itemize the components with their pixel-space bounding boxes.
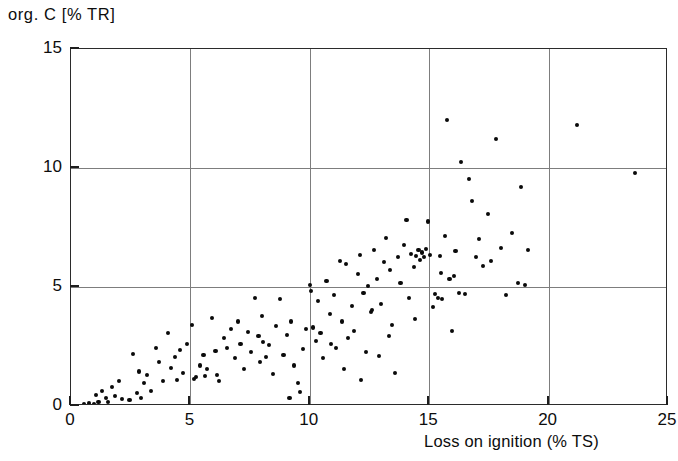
data-point bbox=[301, 347, 305, 351]
data-point bbox=[379, 302, 383, 306]
data-point bbox=[82, 402, 86, 404]
data-point bbox=[359, 378, 363, 382]
data-point bbox=[334, 346, 338, 350]
y-axis-title: org. C [% TR] bbox=[8, 5, 115, 24]
data-point bbox=[450, 329, 454, 333]
data-point bbox=[407, 296, 411, 300]
data-point bbox=[87, 401, 91, 404]
data-point bbox=[113, 394, 117, 398]
data-point bbox=[292, 363, 296, 367]
data-point bbox=[396, 255, 400, 259]
data-point bbox=[222, 336, 226, 340]
data-point bbox=[404, 218, 408, 222]
data-point bbox=[356, 272, 360, 276]
data-point bbox=[422, 255, 426, 259]
data-point bbox=[213, 349, 217, 353]
data-point bbox=[281, 353, 285, 357]
data-point bbox=[409, 252, 413, 256]
data-point bbox=[238, 342, 242, 346]
data-point bbox=[131, 352, 135, 356]
data-point bbox=[470, 199, 474, 203]
data-point bbox=[190, 323, 194, 327]
y-axis-tick bbox=[70, 285, 79, 287]
data-point bbox=[267, 343, 271, 347]
data-point bbox=[92, 402, 96, 405]
x-axis-tick-label: 15 bbox=[408, 410, 448, 430]
data-point bbox=[264, 355, 268, 359]
data-point bbox=[271, 372, 275, 376]
x-axis-tick bbox=[547, 396, 549, 405]
data-point bbox=[217, 379, 221, 383]
data-point bbox=[377, 354, 381, 358]
data-point bbox=[447, 277, 451, 281]
data-point bbox=[225, 346, 229, 350]
y-axis-tick bbox=[70, 404, 79, 406]
data-point bbox=[316, 299, 320, 303]
data-point bbox=[106, 400, 110, 404]
data-point bbox=[318, 331, 322, 335]
data-point bbox=[285, 333, 289, 337]
y-axis-tick bbox=[70, 47, 79, 49]
data-point bbox=[278, 297, 282, 301]
x-axis-tick bbox=[69, 396, 71, 405]
data-point bbox=[352, 329, 356, 333]
data-point bbox=[393, 371, 397, 375]
data-point bbox=[443, 234, 447, 238]
data-point bbox=[402, 243, 406, 247]
data-point bbox=[157, 360, 161, 364]
data-point bbox=[344, 262, 348, 266]
data-point bbox=[233, 356, 237, 360]
data-point bbox=[523, 283, 527, 287]
data-point bbox=[370, 308, 374, 312]
data-point bbox=[452, 274, 456, 278]
data-point bbox=[308, 283, 312, 287]
data-point bbox=[340, 319, 344, 323]
data-point bbox=[246, 330, 250, 334]
data-point bbox=[120, 397, 124, 401]
data-point bbox=[390, 323, 394, 327]
data-point bbox=[210, 316, 214, 320]
data-point bbox=[418, 258, 422, 262]
x-axis-tick bbox=[427, 396, 429, 405]
data-point bbox=[372, 248, 376, 252]
data-point bbox=[309, 289, 313, 293]
x-axis-tick bbox=[666, 396, 668, 405]
data-point bbox=[236, 319, 240, 323]
data-point bbox=[260, 314, 264, 318]
data-point bbox=[413, 317, 417, 321]
data-point bbox=[467, 177, 471, 181]
data-point bbox=[324, 279, 328, 283]
data-point bbox=[328, 312, 332, 316]
data-point bbox=[361, 291, 365, 295]
data-point bbox=[453, 249, 457, 253]
x-axis-tick-label: 0 bbox=[50, 410, 90, 430]
x-axis-tick-label: 25 bbox=[647, 410, 678, 430]
y-axis-tick-label: 5 bbox=[16, 276, 62, 296]
data-point bbox=[346, 336, 350, 340]
data-point bbox=[258, 360, 262, 364]
data-point bbox=[137, 369, 141, 373]
data-point bbox=[94, 393, 98, 397]
data-point bbox=[342, 367, 346, 371]
data-point bbox=[149, 389, 153, 393]
data-point bbox=[350, 304, 354, 308]
data-point bbox=[194, 375, 198, 379]
data-point bbox=[154, 346, 158, 350]
data-point bbox=[526, 248, 530, 252]
data-point bbox=[287, 396, 291, 400]
data-point bbox=[516, 281, 520, 285]
plot-area bbox=[70, 48, 667, 405]
data-point bbox=[439, 271, 443, 275]
data-point bbox=[203, 374, 207, 378]
data-point bbox=[428, 253, 432, 257]
data-point bbox=[477, 237, 481, 241]
data-point bbox=[229, 327, 233, 331]
data-point bbox=[198, 363, 202, 367]
data-point bbox=[510, 231, 514, 235]
data-point bbox=[481, 264, 485, 268]
data-point bbox=[110, 385, 114, 389]
data-point bbox=[387, 334, 391, 338]
data-point bbox=[398, 281, 402, 285]
data-point bbox=[166, 331, 170, 335]
x-axis-tick bbox=[188, 396, 190, 405]
